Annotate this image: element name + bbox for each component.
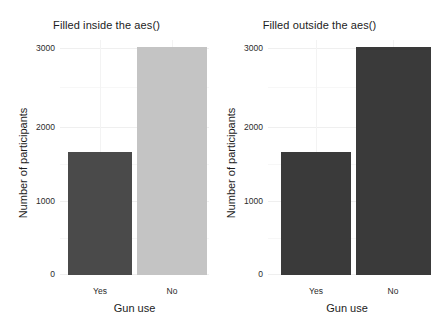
x-tick-no-left: No xyxy=(167,286,178,296)
x-tick-no-right: No xyxy=(388,286,399,296)
y-tick-3000-left: 3000 xyxy=(36,43,55,53)
y-tick-0-left: 0 xyxy=(50,269,55,279)
y-axis-title-left: Number of participants xyxy=(17,88,29,238)
plot-area-left xyxy=(60,40,209,275)
panel-title-left: Filled inside the aes() xyxy=(0,19,213,31)
panel-filled-inside-aes: Filled inside the aes() 3000 2000 1000 0… xyxy=(0,0,213,334)
bar-yes-right[interactable] xyxy=(281,152,351,275)
y-tick-2000-right: 2000 xyxy=(244,122,263,132)
panel-title-right: Filled outside the aes() xyxy=(213,19,426,31)
y-tick-1000-right: 1000 xyxy=(244,196,263,206)
x-tick-yes-right: Yes xyxy=(309,286,323,296)
x-axis-title-right: Gun use xyxy=(268,302,426,314)
bar-yes-left[interactable] xyxy=(68,152,132,275)
y-tick-0-right: 0 xyxy=(258,269,263,279)
panel-filled-outside-aes: Filled outside the aes() 3000 2000 1000 … xyxy=(213,0,426,334)
y-axis-title-right: Number of participants xyxy=(225,88,237,238)
x-tick-yes-left: Yes xyxy=(93,286,107,296)
y-tick-1000-left: 1000 xyxy=(36,196,55,206)
plot-area-right xyxy=(268,40,426,275)
y-tick-3000-right: 3000 xyxy=(244,43,263,53)
bar-no-right[interactable] xyxy=(356,47,431,275)
x-axis-title-left: Gun use xyxy=(60,302,209,314)
bar-no-left[interactable] xyxy=(137,47,207,275)
y-tick-2000-left: 2000 xyxy=(36,122,55,132)
